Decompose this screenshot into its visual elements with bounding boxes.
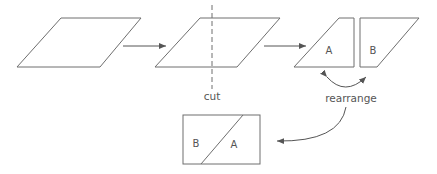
piece-a-label: A xyxy=(326,45,333,56)
cut-parallelogram xyxy=(155,18,280,67)
cut-label: cut xyxy=(204,90,221,102)
rearrange-arrow xyxy=(327,77,366,87)
result-arrow xyxy=(277,107,346,141)
piece-b-label: B xyxy=(370,45,377,56)
piece-b-shape xyxy=(360,18,419,67)
piece-a-shape xyxy=(294,18,354,67)
result-b-label: B xyxy=(193,138,200,149)
diagram-canvas: cut A B rearrange B A xyxy=(0,0,437,174)
result-a-label: A xyxy=(231,139,238,150)
rearrange-label: rearrange xyxy=(325,92,377,104)
original-parallelogram xyxy=(17,18,141,67)
